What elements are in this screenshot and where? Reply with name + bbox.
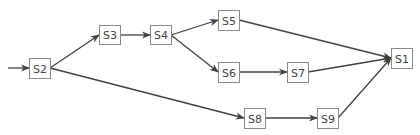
- node-label: S4: [154, 29, 168, 42]
- node-s8: S8: [245, 109, 266, 129]
- flow-diagram: S2S3S4S5S6S7S8S9S1: [0, 0, 420, 135]
- node-label: S2: [33, 63, 47, 76]
- nodes-layer: S2S3S4S5S6S7S8S9S1: [30, 11, 413, 129]
- node-label: S5: [222, 15, 236, 28]
- edge-s9-to-s1: [338, 58, 391, 118]
- edge-s2-to-s8: [50, 68, 244, 118]
- node-label: S9: [321, 113, 335, 126]
- node-s6: S6: [219, 63, 240, 83]
- edges-layer: [8, 20, 391, 118]
- edge-s7-to-s1: [308, 58, 391, 72]
- node-s7: S7: [288, 63, 309, 83]
- node-s2: S2: [30, 59, 51, 79]
- node-label: S8: [248, 113, 262, 126]
- node-label: S3: [103, 29, 117, 42]
- node-label: S1: [395, 53, 409, 66]
- node-label: S7: [291, 67, 305, 80]
- node-s3: S3: [100, 26, 121, 45]
- node-s1: S1: [392, 49, 413, 69]
- node-s9: S9: [318, 109, 339, 129]
- node-s5: S5: [219, 11, 240, 31]
- edge-s4-to-s6: [171, 35, 218, 72]
- node-s4: S4: [151, 26, 172, 45]
- edge-s2-to-s3: [50, 35, 99, 68]
- edge-s5-to-s1: [239, 20, 391, 58]
- node-label: S6: [222, 67, 236, 80]
- edge-s4-to-s5: [171, 20, 218, 35]
